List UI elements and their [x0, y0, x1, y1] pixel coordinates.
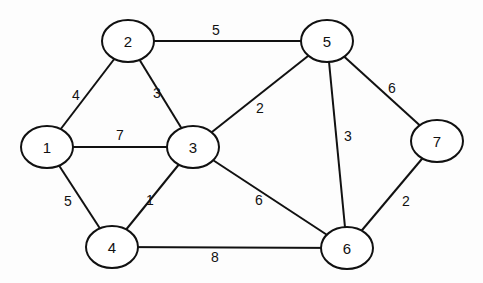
edge-weight-3-4: 1 [146, 192, 154, 208]
node-6: 6 [321, 227, 373, 269]
node-label: 5 [323, 33, 331, 50]
edge-5-6 [327, 41, 347, 248]
edge-weight-5-6: 3 [344, 128, 352, 144]
edge-weight-4-6: 8 [211, 249, 219, 265]
edge-weight-3-6: 6 [255, 192, 263, 208]
node-7: 7 [411, 120, 463, 162]
edge-4-6 [112, 247, 347, 248]
edge-weight-3-5: 2 [256, 100, 264, 116]
graph-diagram: 475351268362 1234567 [0, 0, 483, 283]
edge-weight-1-2: 4 [72, 87, 80, 103]
edge-weight-1-4: 5 [64, 193, 72, 209]
node-2: 2 [102, 20, 154, 62]
edge-weight-2-5: 5 [212, 22, 220, 38]
edge-weight-2-3: 3 [153, 85, 161, 101]
nodes-layer: 1234567 [21, 20, 463, 269]
node-1: 1 [21, 126, 73, 168]
node-3: 3 [167, 126, 219, 168]
node-4: 4 [86, 226, 138, 268]
node-label: 4 [108, 239, 116, 256]
edge-weight-6-7: 2 [402, 193, 410, 209]
edge-weight-1-3: 7 [116, 127, 124, 143]
edge-weight-5-7: 6 [388, 80, 396, 96]
edge-3-6 [193, 147, 347, 248]
node-label: 3 [189, 139, 197, 156]
edge-3-5 [193, 41, 327, 147]
graph-svg: 475351268362 1234567 [0, 0, 483, 283]
edges-layer [47, 41, 437, 248]
node-label: 6 [343, 240, 351, 257]
node-5: 5 [301, 20, 353, 62]
node-label: 1 [43, 139, 51, 156]
node-label: 7 [433, 133, 441, 150]
node-label: 2 [124, 33, 132, 50]
